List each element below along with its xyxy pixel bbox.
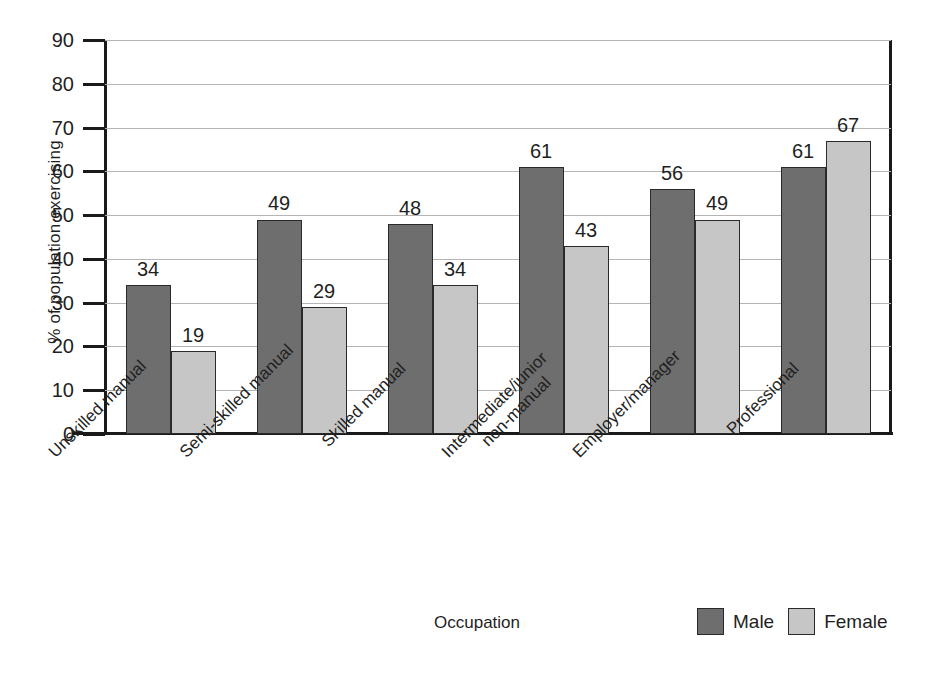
bar-value-label: 34 — [120, 259, 177, 279]
legend-label-male: Male — [733, 611, 774, 633]
y-axis-tick-label: 10 — [28, 380, 74, 400]
bar-female — [826, 141, 871, 434]
bar-male — [388, 224, 433, 434]
bar-value-label: 49 — [251, 193, 308, 213]
y-axis-tick — [83, 127, 105, 130]
legend-swatch-female-icon — [788, 608, 815, 635]
bar-male — [257, 220, 302, 435]
y-axis-line — [104, 40, 107, 434]
bar-value-label: 34 — [427, 259, 484, 279]
y-axis-tick-label: 80 — [28, 74, 74, 94]
bar-male — [650, 189, 695, 434]
legend: Male Female — [697, 608, 888, 635]
bar-value-label: 43 — [558, 220, 615, 240]
legend-item-male: Male — [697, 608, 774, 635]
legend-swatch-male-icon — [697, 608, 724, 635]
gridline — [105, 40, 891, 41]
y-axis-tick-labels: 0102030405060708090 — [28, 40, 74, 434]
right-spine-line — [889, 40, 892, 434]
y-axis-tick — [83, 302, 105, 305]
bar-female — [695, 220, 740, 435]
gridline — [105, 128, 891, 129]
legend-label-female: Female — [824, 611, 887, 633]
y-axis-tick — [83, 345, 105, 348]
bar-value-label: 29 — [296, 281, 353, 301]
y-axis-tick-label: 30 — [28, 293, 74, 313]
bar-male — [781, 167, 826, 434]
y-axis-tick — [83, 214, 105, 217]
gridline — [105, 215, 891, 216]
y-axis-tick — [83, 170, 105, 173]
gridline — [105, 346, 891, 347]
bar-chart: % of population exercising 0102030405060… — [0, 0, 932, 682]
bar-value-label: 56 — [644, 163, 701, 183]
y-axis-tick — [83, 39, 105, 42]
gridline — [105, 303, 891, 304]
y-axis-tick-label: 40 — [28, 249, 74, 269]
x-axis-title: Occupation — [434, 613, 520, 633]
y-axis-tick-label: 90 — [28, 30, 74, 50]
bar-value-label: 48 — [382, 198, 439, 218]
y-axis-tick — [83, 83, 105, 86]
y-axis-tick-label: 20 — [28, 336, 74, 356]
bar-value-label: 61 — [775, 141, 832, 161]
bar-female — [564, 246, 609, 434]
y-axis-tick-label: 50 — [28, 205, 74, 225]
gridline — [105, 259, 891, 260]
gridline — [105, 171, 891, 172]
gridline — [105, 84, 891, 85]
y-axis-tick-label: 70 — [28, 118, 74, 138]
bar-value-label: 19 — [165, 325, 222, 345]
y-axis-tick-label: 60 — [28, 161, 74, 181]
bar-value-label: 61 — [513, 141, 570, 161]
bar-value-label: 67 — [820, 115, 877, 135]
legend-item-female: Female — [788, 608, 887, 635]
bar-value-label: 49 — [689, 193, 746, 213]
y-axis-tick — [83, 258, 105, 261]
bar-female — [433, 285, 478, 434]
